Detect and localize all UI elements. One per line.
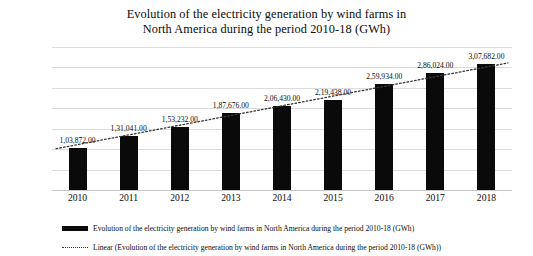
bar-slot: 1,53,232.00 bbox=[154, 47, 205, 190]
legend-swatch-dotted-line-icon bbox=[62, 245, 88, 250]
bar bbox=[69, 148, 87, 190]
legend-item-bar-series: Evolution of the electricity generation … bbox=[0, 219, 533, 238]
chart-title-line-2: North America during the period 2010-18 … bbox=[0, 22, 533, 37]
x-axis-tick-label: 2017 bbox=[410, 192, 461, 203]
legend-swatch-bar-icon bbox=[62, 226, 88, 231]
bar-slot: 2,59,934.00 bbox=[359, 47, 410, 190]
bar bbox=[324, 100, 342, 190]
bar-slot: 2,86,024.00 bbox=[410, 47, 461, 190]
chart-container: Evolution of the electricity generation … bbox=[0, 0, 533, 256]
bar-data-label: 2,59,934.00 bbox=[366, 72, 402, 81]
bar-data-label: 1,87,676.00 bbox=[213, 101, 249, 110]
x-axis-tick-label: 2012 bbox=[154, 192, 205, 203]
legend-item-trendline: Linear (Evolution of the electricity gen… bbox=[0, 238, 533, 256]
bar-slot: 2,19,438.00 bbox=[308, 47, 359, 190]
x-axis-tick-labels: 201020112012201320142015201620172018 bbox=[52, 192, 512, 203]
bar bbox=[477, 64, 495, 190]
bar-slot: 1,31,041.00 bbox=[103, 47, 154, 190]
bar bbox=[222, 113, 240, 190]
bar bbox=[120, 136, 138, 190]
x-axis-tick-label: 2016 bbox=[359, 192, 410, 203]
bar bbox=[273, 106, 291, 190]
bar-data-label: 3,07,682.00 bbox=[468, 52, 504, 61]
legend-label-trendline: Linear (Evolution of the electricity gen… bbox=[93, 243, 441, 252]
x-axis-tick-label: 2011 bbox=[103, 192, 154, 203]
x-axis-tick-label: 2014 bbox=[256, 192, 307, 203]
bar-slot: 1,87,676.00 bbox=[205, 47, 256, 190]
bar-slot: 2,06,430.00 bbox=[256, 47, 307, 190]
bar bbox=[171, 127, 189, 190]
bar-data-label: 1,53,232.00 bbox=[162, 115, 198, 124]
bar bbox=[375, 84, 393, 190]
bar-slot: 1,03,872.00 bbox=[52, 47, 103, 190]
chart-legend: Evolution of the electricity generation … bbox=[0, 219, 533, 256]
bar-data-label: 2,19,438.00 bbox=[315, 88, 351, 97]
bar-data-label: 1,31,041.00 bbox=[111, 124, 147, 133]
x-axis-tick-label: 2015 bbox=[308, 192, 359, 203]
bar-data-label: 2,06,430.00 bbox=[264, 94, 300, 103]
bar-slot: 3,07,682.00 bbox=[461, 47, 512, 190]
bar-data-label: 1,03,872.00 bbox=[60, 136, 96, 145]
plot-area: 3500003000002500002000001500001000005000… bbox=[52, 47, 512, 190]
bar-data-label: 2,86,024.00 bbox=[417, 61, 453, 70]
gridline bbox=[52, 190, 512, 191]
legend-label-bar-series: Evolution of the electricity generation … bbox=[93, 224, 414, 233]
x-axis-tick-label: 2010 bbox=[52, 192, 103, 203]
x-axis-tick-label: 2018 bbox=[461, 192, 512, 203]
bar-series: 1,03,872.001,31,041.001,53,232.001,87,67… bbox=[52, 47, 512, 190]
x-axis-tick-label: 2013 bbox=[205, 192, 256, 203]
chart-title: Evolution of the electricity generation … bbox=[0, 7, 533, 37]
chart-title-line-1: Evolution of the electricity generation … bbox=[0, 7, 533, 22]
bar bbox=[426, 73, 444, 190]
